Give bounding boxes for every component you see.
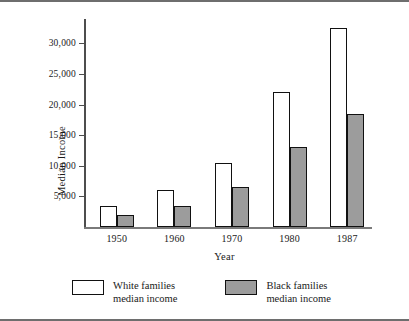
bar-1970-white	[215, 163, 232, 227]
y-tick-mark	[79, 196, 85, 197]
legend-label-black: Black families median income	[266, 279, 330, 305]
bar-1950-white	[100, 206, 117, 227]
bar-group-1987	[330, 19, 364, 227]
y-tick-mark	[79, 166, 85, 167]
bar-group-1960	[157, 19, 191, 227]
plot-area: 5,00010,00015,00020,00025,00030,000 1950…	[84, 19, 372, 229]
legend-item-black: Black families median income	[225, 279, 330, 305]
y-tick-label: 5,000	[54, 191, 76, 201]
y-tick-label: 30,000	[49, 38, 76, 48]
y-tick-label: 20,000	[49, 100, 76, 110]
legend-label-black-line2: median income	[266, 292, 330, 305]
top-divider	[0, 0, 409, 2]
y-tick-label: 25,000	[49, 69, 76, 79]
x-axis-line	[84, 227, 372, 229]
bar-group-1970	[215, 19, 249, 227]
x-tick-label-1950: 1950	[106, 233, 127, 244]
legend-item-white: White families median income	[72, 279, 177, 305]
bar-1987-black	[347, 114, 364, 227]
chart-legend: White families median income Black famil…	[72, 279, 362, 305]
y-axis-line	[84, 19, 86, 229]
y-tick-mark	[79, 74, 85, 75]
white-swatch-icon	[72, 280, 104, 295]
bar-group-1980	[273, 19, 307, 227]
x-axis-title: Year	[0, 251, 409, 262]
legend-label-white-line2: median income	[113, 292, 177, 305]
black-swatch-icon	[225, 280, 257, 295]
bar-1987-white	[330, 28, 347, 227]
x-tick-label-1980: 1980	[279, 233, 300, 244]
bar-1960-black	[174, 206, 191, 227]
y-tick-mark	[79, 105, 85, 106]
legend-label-white-line1: White families	[113, 279, 177, 292]
bar-1960-white	[157, 190, 174, 227]
x-tick-label-1960: 1960	[164, 233, 185, 244]
bar-1970-black	[232, 187, 249, 227]
x-tick-label-1987: 1987	[337, 233, 358, 244]
bar-1950-black	[117, 215, 134, 227]
y-tick-label: 15,000	[49, 130, 76, 140]
x-tick-label-1970: 1970	[222, 233, 243, 244]
bar-1980-white	[273, 92, 290, 227]
bar-1980-black	[290, 147, 307, 227]
bar-group-1950	[100, 19, 134, 227]
y-tick-label: 10,000	[49, 161, 76, 171]
legend-label-black-line1: Black families	[266, 279, 330, 292]
legend-label-white: White families median income	[113, 279, 177, 305]
y-tick-mark	[79, 43, 85, 44]
chart-page: Median Income 5,00010,00015,00020,00025,…	[0, 0, 409, 321]
y-tick-mark	[79, 135, 85, 136]
